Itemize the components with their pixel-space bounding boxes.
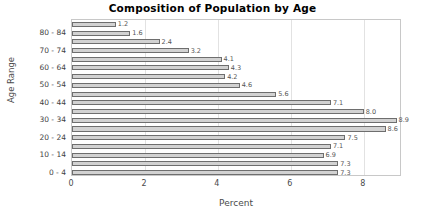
x-tick-label: 4 bbox=[202, 179, 232, 188]
x-tick-label: 2 bbox=[129, 179, 159, 188]
y-tick-label: 60 - 64 bbox=[0, 62, 66, 71]
y-tick-label: 30 - 34 bbox=[0, 115, 66, 124]
y-axis-ticks: 0 - 410 - 1420 - 2430 - 3440 - 4450 - 54… bbox=[0, 19, 425, 176]
y-tick-label: 10 - 14 bbox=[0, 150, 66, 159]
y-tick-label: 80 - 84 bbox=[0, 28, 66, 37]
chart-page: Composition of Population by Age Age Ran… bbox=[0, 0, 425, 218]
y-tick-label: 40 - 44 bbox=[0, 97, 66, 106]
chart-title: Composition of Population by Age bbox=[0, 2, 425, 14]
x-tick-label: 8 bbox=[348, 179, 378, 188]
x-tick-label: 6 bbox=[275, 179, 305, 188]
x-axis-title: Percent bbox=[71, 198, 401, 208]
x-axis-ticks: 02468 bbox=[71, 179, 401, 193]
y-tick-label: 70 - 74 bbox=[0, 45, 66, 54]
x-tick-label: 0 bbox=[56, 179, 86, 188]
y-tick-label: 50 - 54 bbox=[0, 80, 66, 89]
y-tick-label: 0 - 4 bbox=[0, 167, 66, 176]
y-tick-label: 20 - 24 bbox=[0, 132, 66, 141]
